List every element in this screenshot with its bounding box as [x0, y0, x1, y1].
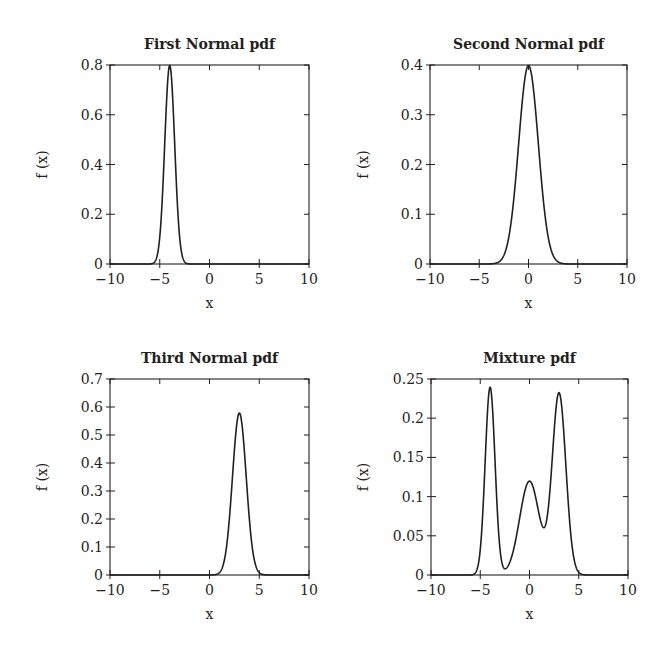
- y-tick-label: 0.5: [81, 427, 103, 443]
- x-tick-label: −10: [95, 271, 125, 287]
- axes-frame: [430, 65, 627, 264]
- x-tick-label: 0: [524, 271, 533, 287]
- x-tick-label: 10: [300, 271, 318, 287]
- y-axis-label: f (x): [34, 150, 50, 178]
- first-normal-curve: [110, 66, 309, 264]
- y-tick-label: 0.2: [402, 410, 424, 426]
- x-tick-label: 0: [205, 582, 214, 598]
- y-tick-label: 0: [94, 567, 103, 583]
- y-tick-label: 0.4: [81, 157, 103, 173]
- second-normal-panel: −10−5051000.10.20.30.4Second Normal pdfx…: [355, 36, 636, 311]
- y-tick-label: 0.1: [81, 539, 103, 555]
- x-tick-label: 10: [300, 582, 318, 598]
- y-tick-label: 0.4: [81, 455, 103, 471]
- axes-frame: [110, 379, 309, 575]
- y-tick-label: 0: [415, 567, 424, 583]
- y-tick-label: 0.25: [393, 371, 424, 387]
- third-normal-panel: −10−5051000.10.20.30.40.50.60.7Third Nor…: [34, 350, 318, 622]
- chart-title: Second Normal pdf: [453, 36, 605, 52]
- y-tick-label: 0.1: [402, 489, 424, 505]
- x-tick-label: 0: [525, 582, 534, 598]
- first-normal-panel: −10−5051000.20.40.60.8First Normal pdfxf…: [34, 36, 318, 311]
- mixture-panel: −10−5051000.050.10.150.20.25Mixture pdfx…: [355, 350, 637, 622]
- x-tick-label: 5: [574, 582, 583, 598]
- x-tick-label: −10: [95, 582, 125, 598]
- third-normal-curve: [110, 413, 309, 575]
- y-tick-label: 0.4: [401, 57, 423, 73]
- second-normal-curve: [430, 66, 627, 264]
- x-tick-label: 10: [618, 271, 636, 287]
- chart-title: Third Normal pdf: [141, 350, 279, 366]
- axes-frame: [110, 65, 309, 264]
- x-axis-label: x: [526, 606, 534, 622]
- y-tick-label: 0.1: [401, 206, 423, 222]
- y-tick-label: 0.8: [81, 57, 103, 73]
- y-tick-label: 0: [414, 256, 423, 272]
- y-tick-label: 0.05: [393, 528, 424, 544]
- y-tick-label: 0.2: [81, 511, 103, 527]
- x-tick-label: −10: [415, 271, 445, 287]
- x-axis-label: x: [525, 295, 533, 311]
- x-tick-label: 5: [255, 582, 264, 598]
- y-tick-label: 0.3: [81, 483, 103, 499]
- y-tick-label: 0.7: [81, 371, 103, 387]
- y-tick-label: 0.15: [393, 449, 424, 465]
- x-tick-label: −5: [470, 582, 491, 598]
- axes-frame: [431, 379, 628, 575]
- y-tick-label: 0.6: [81, 107, 103, 123]
- x-axis-label: x: [206, 295, 214, 311]
- y-tick-label: 0.2: [81, 206, 103, 222]
- chart-title: First Normal pdf: [144, 36, 276, 52]
- mixture-curve: [431, 387, 628, 575]
- y-axis-label: f (x): [34, 463, 50, 491]
- y-axis-label: f (x): [355, 463, 371, 491]
- y-tick-label: 0.3: [401, 107, 423, 123]
- x-tick-label: 10: [619, 582, 637, 598]
- x-tick-label: −5: [149, 582, 170, 598]
- y-tick-label: 0.6: [81, 399, 103, 415]
- x-tick-label: −5: [149, 271, 170, 287]
- x-tick-label: 5: [573, 271, 582, 287]
- x-axis-label: x: [206, 606, 214, 622]
- chart-title: Mixture pdf: [483, 350, 577, 366]
- y-tick-label: 0: [94, 256, 103, 272]
- figure: −10−5051000.20.40.60.8First Normal pdfxf…: [0, 0, 665, 647]
- x-tick-label: 0: [205, 271, 214, 287]
- y-tick-label: 0.2: [401, 157, 423, 173]
- x-tick-label: 5: [255, 271, 264, 287]
- x-tick-label: −10: [416, 582, 446, 598]
- x-tick-label: −5: [469, 271, 490, 287]
- y-axis-label: f (x): [355, 150, 371, 178]
